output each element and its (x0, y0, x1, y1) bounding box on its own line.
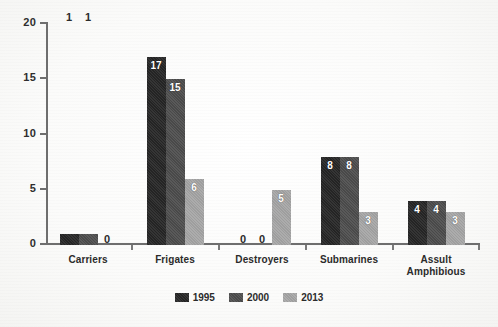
y-axis-label-5: 5 (6, 182, 36, 194)
legend-swatch-2013-icon (283, 293, 297, 302)
bar-value-carriers-1995: 1 (60, 11, 79, 23)
bar-group-frigates: 17 15 6 (142, 25, 208, 245)
y-axis-label-20: 20 (6, 16, 36, 28)
bar-value-destroyers-2000: 0 (253, 233, 272, 245)
bar-slot-submarines-2000[interactable]: 8 (340, 25, 359, 245)
bar-slot-amphibious-2000[interactable]: 4 (427, 25, 446, 245)
bar-value-frigates-2013: 6 (185, 182, 204, 193)
bar-submarines-1995[interactable]: 8 (321, 157, 340, 245)
bar-slot-frigates-1995[interactable]: 17 (147, 25, 166, 245)
bar-value-destroyers-1995: 0 (234, 233, 253, 245)
legend-item-1995[interactable]: 1995 (175, 292, 215, 303)
bar-amphibious-1995[interactable]: 4 (408, 201, 427, 245)
bar-value-destroyers-2013: 5 (272, 193, 291, 204)
y-tick-0 (40, 243, 47, 245)
bar-value-amphibious-2013: 3 (446, 215, 465, 226)
x-tick-1 (131, 245, 133, 250)
bar-frigates-2000[interactable]: 15 (166, 79, 185, 245)
legend-item-2000[interactable]: 2000 (229, 292, 269, 303)
x-tick-4 (392, 245, 394, 250)
bar-value-carriers-2000: 1 (79, 11, 98, 23)
bar-slot-amphibious-2013[interactable]: 3 (446, 25, 465, 245)
bar-value-submarines-2013: 3 (359, 215, 378, 226)
bar-slot-frigates-2000[interactable]: 15 (166, 25, 185, 245)
bar-value-frigates-2000: 15 (166, 82, 185, 93)
x-category-label-destroyers: Destroyers (225, 254, 299, 266)
bar-submarines-2013[interactable]: 3 (359, 212, 378, 245)
x-category-label-assult-amphibious: Assult Amphibious (399, 254, 473, 278)
legend-label-1995: 1995 (193, 292, 215, 303)
x-category-label-frigates: Frigates (142, 254, 208, 266)
bar-slot-submarines-2013[interactable]: 3 (359, 25, 378, 245)
bar-value-frigates-1995: 17 (147, 60, 166, 71)
bar-value-amphibious-2000: 4 (427, 204, 446, 215)
bar-group-assult-amphibious: 4 4 3 (403, 25, 469, 245)
bar-value-amphibious-1995: 4 (408, 204, 427, 215)
y-tick-5 (40, 188, 47, 190)
legend-swatch-2000-icon (229, 293, 243, 302)
bar-slot-frigates-2013[interactable]: 6 (185, 25, 204, 245)
bar-value-submarines-1995: 8 (321, 160, 340, 171)
y-axis-label-0: 0 (6, 237, 36, 249)
x-tick-3 (305, 245, 307, 250)
bar-value-carriers-2013: 0 (98, 233, 117, 245)
y-tick-10 (40, 133, 47, 135)
bar-slot-amphibious-1995[interactable]: 4 (408, 25, 427, 245)
bar-submarines-2000[interactable]: 8 (340, 157, 359, 245)
bar-slot-submarines-1995[interactable]: 8 (321, 25, 340, 245)
bar-slot-carriers-2013[interactable]: 0 (98, 25, 117, 245)
bar-destroyers-2013[interactable]: 5 (272, 190, 291, 245)
bar-slot-destroyers-2000[interactable]: 0 (253, 25, 272, 245)
bar-chart: 20 15 10 5 0 1 1 0 17 15 (0, 0, 498, 327)
bar-slot-carriers-1995[interactable]: 1 (60, 25, 79, 245)
bar-amphibious-2000[interactable]: 4 (427, 201, 446, 245)
x-category-label-submarines: Submarines (312, 254, 386, 266)
y-tick-15 (40, 77, 47, 79)
x-category-label-assult-line2: Amphibious (399, 266, 473, 278)
y-axis-label-10: 10 (6, 127, 36, 139)
x-category-label-assult-line1: Assult (399, 254, 473, 266)
x-category-label-carriers: Carriers (55, 254, 121, 266)
y-tick-20 (40, 22, 47, 24)
bar-group-destroyers: 0 0 5 (229, 25, 295, 245)
y-axis-label-15: 15 (6, 71, 36, 83)
x-tick-2 (218, 245, 220, 250)
bar-amphibious-2013[interactable]: 3 (446, 212, 465, 245)
x-tick-5 (478, 245, 480, 250)
bar-slot-destroyers-1995[interactable]: 0 (234, 25, 253, 245)
legend-label-2000: 2000 (247, 292, 269, 303)
bar-value-submarines-2000: 8 (340, 160, 359, 171)
bar-carriers-2000[interactable] (79, 234, 98, 245)
bar-group-submarines: 8 8 3 (316, 25, 382, 245)
bar-slot-destroyers-2013[interactable]: 5 (272, 25, 291, 245)
legend-label-2013: 2013 (301, 292, 323, 303)
chart-legend: 1995 2000 2013 (0, 292, 498, 303)
bar-slot-carriers-2000[interactable]: 1 (79, 25, 98, 245)
bar-frigates-1995[interactable]: 17 (147, 57, 166, 245)
bar-carriers-1995[interactable] (60, 234, 79, 245)
bar-group-carriers: 1 1 0 (55, 25, 121, 245)
legend-swatch-1995-icon (175, 293, 189, 302)
bar-frigates-2013[interactable]: 6 (185, 179, 204, 245)
legend-item-2013[interactable]: 2013 (283, 292, 323, 303)
